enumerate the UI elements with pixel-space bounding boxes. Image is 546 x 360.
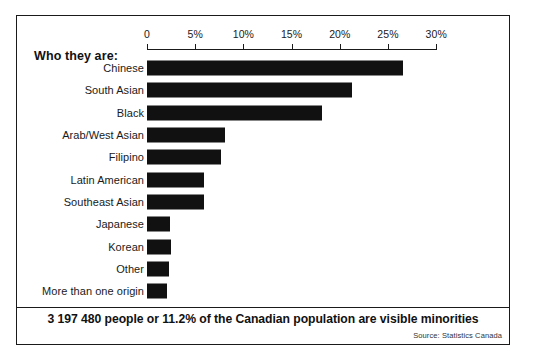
category-label: More than one origin xyxy=(42,285,144,297)
bar xyxy=(147,261,169,276)
bar xyxy=(147,239,171,254)
bar-row: Filipino xyxy=(17,146,509,168)
bar xyxy=(147,83,352,98)
bar-row: Other xyxy=(17,258,509,280)
bar-row: South Asian xyxy=(17,79,509,101)
x-axis-tick-label: 5% xyxy=(187,28,202,40)
bar-row: Japanese xyxy=(17,213,509,235)
x-axis-tick-label: 30% xyxy=(426,28,447,40)
x-axis-tick-label: 15% xyxy=(281,28,302,40)
x-axis-tick-label: 25% xyxy=(377,28,398,40)
x-axis-tick-label: 20% xyxy=(329,28,350,40)
category-label: Southeast Asian xyxy=(64,196,144,208)
bar-row: More than one origin xyxy=(17,280,509,302)
category-label: Arab/West Asian xyxy=(62,129,144,141)
bar xyxy=(147,217,170,232)
x-axis-tick-label: 10% xyxy=(233,28,254,40)
bar xyxy=(147,150,221,165)
x-axis-left-cap xyxy=(147,44,148,50)
bar xyxy=(147,172,204,187)
bar xyxy=(147,128,225,143)
bar-row: Latin American xyxy=(17,168,509,190)
category-label: Latin American xyxy=(71,174,144,186)
category-label: Filipino xyxy=(109,151,144,163)
figure-frame: 05%10%15%20%25%30% Who they are: Chinese… xyxy=(16,15,510,345)
category-label: South Asian xyxy=(85,84,144,96)
bar xyxy=(147,61,403,76)
category-label: Other xyxy=(116,263,144,275)
caption-divider xyxy=(17,307,509,308)
category-label: Korean xyxy=(108,241,144,253)
source-note: Source: Statistics Canada xyxy=(413,331,502,340)
bars-plot-area: ChineseSouth AsianBlackArab/West AsianFi… xyxy=(17,57,509,307)
bar-row: Southeast Asian xyxy=(17,191,509,213)
category-label: Chinese xyxy=(103,62,144,74)
caption-text: 3 197 480 people or 11.2% of the Canadia… xyxy=(17,312,509,326)
bar-row: Chinese xyxy=(17,57,509,79)
bar-row: Black xyxy=(17,102,509,124)
bar-row: Arab/West Asian xyxy=(17,124,509,146)
bar xyxy=(147,105,322,120)
x-axis-right-cap xyxy=(436,44,437,50)
x-axis-line xyxy=(147,49,436,50)
x-axis-tick-label: 0 xyxy=(144,28,150,40)
category-label: Japanese xyxy=(96,218,144,230)
category-label: Black xyxy=(117,107,144,119)
bar-row: Korean xyxy=(17,235,509,257)
bar xyxy=(147,284,167,299)
bar xyxy=(147,194,204,209)
